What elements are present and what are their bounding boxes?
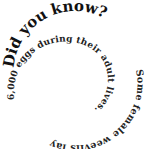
heading-text: Did you know? — [0, 0, 110, 69]
heading-textpath: Did you know? — [0, 0, 110, 69]
spiral-text-graphic: Did you know? Some female weevils lay 6,… — [0, 0, 148, 149]
